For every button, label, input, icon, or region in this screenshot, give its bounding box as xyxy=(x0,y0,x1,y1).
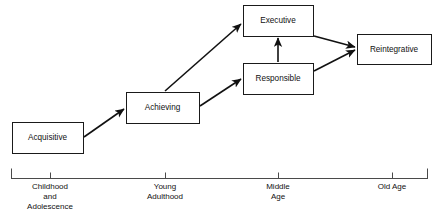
stage-label-reintegrative: Reintegrative xyxy=(370,45,419,54)
axis-label-tick-young-adult: YoungAdulthood xyxy=(147,182,183,201)
stage-label-achieving: Achieving xyxy=(145,103,181,112)
stage-achieving[interactable]: Achieving xyxy=(127,93,200,124)
axis-label-line: Adolescence xyxy=(27,202,73,211)
stage-executive[interactable]: Executive xyxy=(244,6,314,37)
development-stages-diagram: AcquisitiveAchievingExecutiveResponsible… xyxy=(0,0,437,219)
axis-label-line: Adulthood xyxy=(147,192,183,201)
stage-label-executive: Executive xyxy=(260,16,296,25)
axis-label-line: and xyxy=(43,192,56,201)
life-span-axis-layer: ChildhoodandAdolescenceYoungAdulthoodMid… xyxy=(11,169,428,212)
stage-reintegrative[interactable]: Reintegrative xyxy=(358,35,432,65)
stage-label-responsible: Responsible xyxy=(255,74,301,83)
stage-boxes-layer: AcquisitiveAchievingExecutiveResponsible… xyxy=(13,6,432,154)
arrow-acquisitive-to-achieving xyxy=(84,109,124,137)
diagram-canvas: AcquisitiveAchievingExecutiveResponsible… xyxy=(0,0,437,219)
arrow-achieving-to-executive xyxy=(165,24,241,91)
connections-layer xyxy=(84,24,355,137)
stage-acquisitive[interactable]: Acquisitive xyxy=(13,123,84,154)
axis-label-line: Young xyxy=(154,182,176,191)
axis-label-tick-childhood: ChildhoodandAdolescence xyxy=(27,182,73,211)
axis-label-line: Middle xyxy=(266,182,290,191)
arrow-responsible-to-reintegrative xyxy=(314,50,355,71)
stage-label-acquisitive: Acquisitive xyxy=(28,133,68,142)
arrow-executive-to-reintegrative xyxy=(314,36,355,47)
stage-responsible[interactable]: Responsible xyxy=(244,64,314,95)
axis-label-line: Childhood xyxy=(32,182,68,191)
axis-label-line: Age xyxy=(271,192,286,201)
arrow-achieving-to-responsible xyxy=(200,79,241,106)
axis-label-line: Old Age xyxy=(378,182,407,191)
axis-label-tick-old-age: Old Age xyxy=(378,182,407,191)
axis-label-tick-middle-age: MiddleAge xyxy=(266,182,290,201)
